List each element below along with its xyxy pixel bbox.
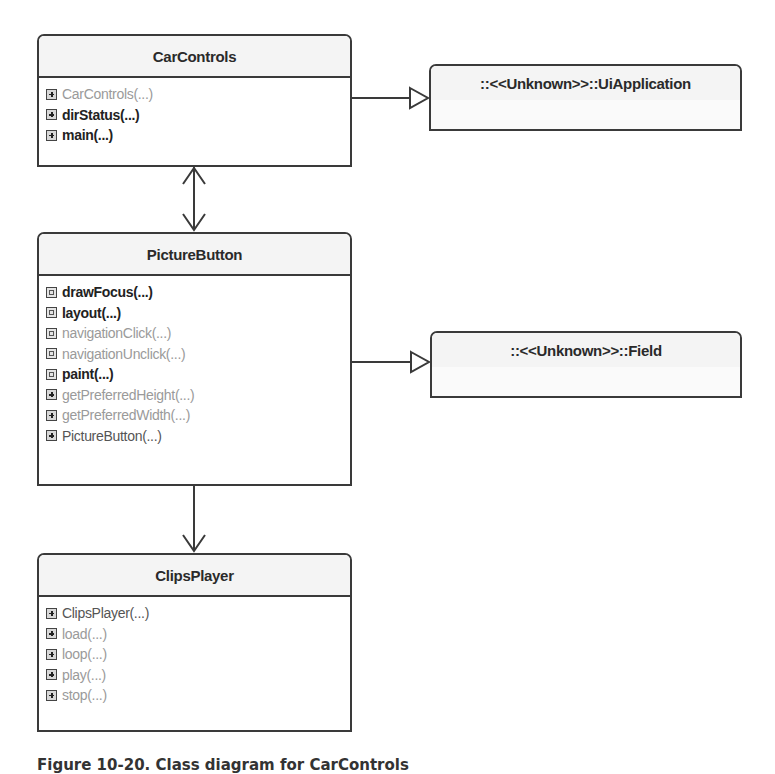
class-field[interactable]: ::<<Unknown>>::Field	[430, 331, 742, 398]
member-label: layout(...)	[62, 305, 121, 321]
member-label: navigationClick(...)	[62, 325, 171, 341]
member-item[interactable]: getPreferredWidth(...)	[46, 405, 350, 426]
public-member-icon	[46, 608, 57, 619]
member-item[interactable]: getPreferredHeight(...)	[46, 385, 350, 406]
protected-member-icon	[46, 328, 57, 339]
member-item[interactable]: dirStatus(...)	[46, 105, 350, 126]
class-name: ::<<Unknown>>::Field	[432, 333, 740, 367]
member-list: ClipsPlayer(...)load(...)loop(...)play(.…	[39, 597, 350, 706]
public-member-icon	[46, 109, 57, 120]
protected-member-icon	[46, 307, 57, 318]
public-member-icon	[46, 389, 57, 400]
member-item[interactable]: loop(...)	[46, 644, 350, 665]
member-label: loop(...)	[62, 646, 107, 662]
protected-member-icon	[46, 348, 57, 359]
member-label: navigationUnclick(...)	[62, 346, 185, 362]
member-label: PictureButton(...)	[62, 428, 162, 444]
member-list: CarControls(...)dirStatus(...)main(...)	[39, 78, 350, 146]
member-label: main(...)	[62, 127, 113, 143]
member-item[interactable]: ClipsPlayer(...)	[46, 603, 350, 624]
member-list: drawFocus(...)layout(...)navigationClick…	[39, 276, 350, 446]
member-item[interactable]: navigationClick(...)	[46, 323, 350, 344]
member-label: getPreferredWidth(...)	[62, 407, 190, 423]
member-item[interactable]: main(...)	[46, 125, 350, 146]
hollow-triangle-arrowhead	[410, 88, 428, 108]
public-member-icon	[46, 430, 57, 441]
class-uiapplication[interactable]: ::<<Unknown>>::UiApplication	[429, 64, 742, 131]
member-label: paint(...)	[62, 366, 113, 382]
figure-caption: Figure 10-20. Class diagram for CarContr…	[37, 756, 409, 774]
public-member-icon	[46, 690, 57, 701]
member-label: stop(...)	[62, 687, 107, 703]
class-name: ClipsPlayer	[39, 555, 350, 597]
member-item[interactable]: load(...)	[46, 624, 350, 645]
member-label: drawFocus(...)	[62, 284, 153, 300]
class-picturebutton[interactable]: PictureButton drawFocus(...)layout(...)n…	[37, 232, 352, 486]
member-label: dirStatus(...)	[62, 107, 139, 123]
member-item[interactable]: play(...)	[46, 665, 350, 686]
public-member-icon	[46, 410, 57, 421]
member-item[interactable]: stop(...)	[46, 685, 350, 706]
member-item[interactable]: PictureButton(...)	[46, 426, 350, 447]
member-item[interactable]: CarControls(...)	[46, 84, 350, 105]
public-member-icon	[46, 130, 57, 141]
member-item[interactable]: layout(...)	[46, 303, 350, 324]
member-label: getPreferredHeight(...)	[62, 387, 194, 403]
member-label: CarControls(...)	[62, 86, 153, 102]
member-item[interactable]: navigationUnclick(...)	[46, 344, 350, 365]
member-item[interactable]: drawFocus(...)	[46, 282, 350, 303]
member-label: ClipsPlayer(...)	[62, 605, 149, 621]
member-label: load(...)	[62, 626, 107, 642]
class-clipsplayer[interactable]: ClipsPlayer ClipsPlayer(...)load(...)loo…	[37, 553, 352, 732]
class-name: ::<<Unknown>>::UiApplication	[431, 66, 740, 100]
public-member-icon	[46, 669, 57, 680]
hollow-triangle-arrowhead	[411, 352, 429, 372]
class-name: CarControls	[39, 36, 350, 78]
public-member-icon	[46, 628, 57, 639]
public-member-icon	[46, 649, 57, 660]
member-label: play(...)	[62, 667, 106, 683]
member-item[interactable]: paint(...)	[46, 364, 350, 385]
public-member-icon	[46, 89, 57, 100]
protected-member-icon	[46, 287, 57, 298]
protected-member-icon	[46, 369, 57, 380]
class-name: PictureButton	[39, 234, 350, 276]
class-carcontrols[interactable]: CarControls CarControls(...)dirStatus(..…	[37, 34, 352, 167]
